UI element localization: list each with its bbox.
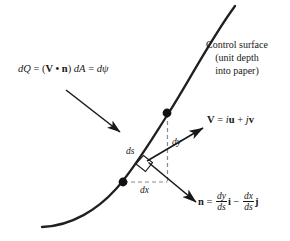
normal-den2: ds (243, 201, 254, 212)
normal-num2: dx (243, 191, 254, 201)
ds-label: ds (126, 146, 134, 157)
velocity-eq: = (215, 114, 226, 125)
upper-surface-point (163, 109, 172, 118)
control-surface-caption: Control surface (unit depth into paper) (206, 38, 268, 78)
lower-surface-point (119, 178, 128, 187)
velocity-v: v (249, 114, 254, 125)
velocity-V: V (207, 114, 215, 125)
flux-dot-operator: • (53, 63, 62, 74)
velocity-equation-label: V = iu + jv (207, 114, 254, 126)
normal-j: j (255, 196, 259, 207)
flux-callout-arrow (66, 90, 120, 132)
velocity-plus: + (235, 114, 246, 125)
flux-eq2: = (86, 63, 97, 74)
normal-equation-label: n = dydsi − dxdsj (198, 192, 259, 214)
flux-psi: ψ (102, 63, 109, 74)
flux-V: V (46, 63, 53, 74)
dy-label: dy (172, 137, 181, 148)
control-surface-line2: (unit depth (206, 51, 268, 64)
normal-minus: − (231, 196, 242, 207)
fluid-flux-diagram: dQ = (V • n) dA = dψ Control surface (un… (0, 0, 290, 241)
flux-equation-label: dQ = (V • n) dA = dψ (18, 63, 108, 75)
normal-den1: ds (216, 201, 227, 212)
control-surface-line3: into paper) (206, 64, 268, 77)
flux-Q: Q (23, 63, 31, 74)
normal-fraction-dy-ds: dyds (216, 191, 227, 213)
normal-eq: = (204, 196, 215, 207)
flux-eq1: = ( (31, 63, 46, 74)
control-surface-line1: Control surface (206, 38, 268, 51)
normal-num1: dy (216, 191, 227, 201)
dx-label: dx (140, 185, 149, 196)
normal-fraction-dx-ds: dxds (243, 191, 254, 213)
